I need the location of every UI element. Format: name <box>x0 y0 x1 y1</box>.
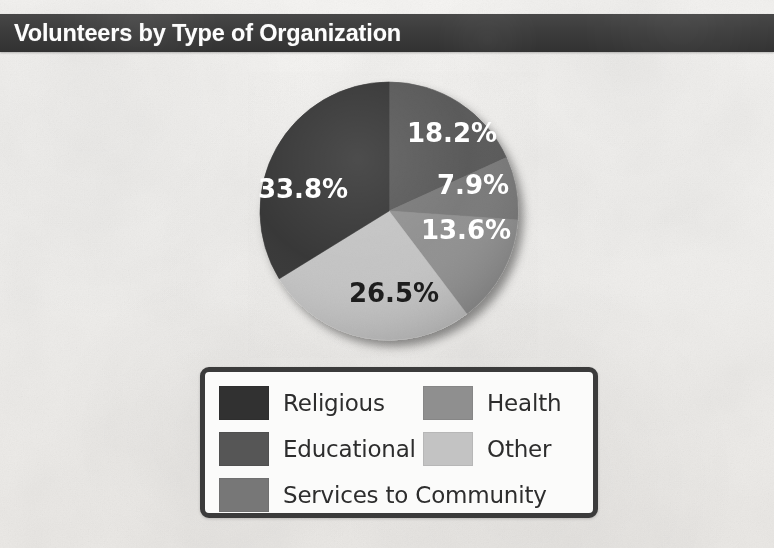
pie-data-label: 13.6% <box>421 215 511 245</box>
legend-item: Other <box>423 432 607 466</box>
pie-data-label: 26.5% <box>349 278 439 308</box>
legend-color-swatch <box>423 386 473 420</box>
legend-item: Religious <box>219 386 423 420</box>
legend-grid: ReligiousHealthEducationalOtherServices … <box>205 372 593 513</box>
chart-title-bar: Volunteers by Type of Organization <box>0 14 774 52</box>
legend-item-label: Religious <box>283 390 385 416</box>
pie-chart-svg: 18.2%7.9%13.6%26.5%33.8% <box>248 72 538 358</box>
legend-item-label: Educational <box>283 436 416 462</box>
pie-data-label: 18.2% <box>407 118 497 148</box>
pie-data-label: 33.8% <box>258 174 348 204</box>
legend-item-label: Other <box>487 436 551 462</box>
page-title: Volunteers by Type of Organization <box>14 14 401 52</box>
legend-item: Health <box>423 386 607 420</box>
pie-data-label: 7.9% <box>437 170 509 200</box>
legend-color-swatch <box>219 386 269 420</box>
legend-item: Services to Community <box>219 478 607 512</box>
legend-item-label: Health <box>487 390 561 416</box>
pie-chart: 18.2%7.9%13.6%26.5%33.8% <box>248 72 538 358</box>
legend-color-swatch <box>423 432 473 466</box>
legend-item: Educational <box>219 432 423 466</box>
legend: ReligiousHealthEducationalOtherServices … <box>200 367 598 518</box>
legend-color-swatch <box>219 432 269 466</box>
legend-color-swatch <box>219 478 269 512</box>
legend-item-label: Services to Community <box>283 482 547 508</box>
